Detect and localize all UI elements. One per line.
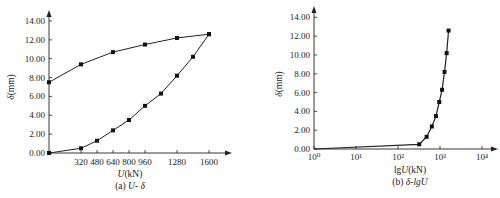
data-marker-square-icon <box>47 151 51 155</box>
data-marker-square-icon <box>445 51 449 55</box>
data-marker-square-icon <box>111 50 115 54</box>
data-marker-square-icon <box>430 124 434 128</box>
y-tick-label: 10.00 <box>290 50 311 60</box>
data-marker-square-icon <box>127 118 131 122</box>
x-tick-label: 480 <box>90 157 104 167</box>
x-tick-label: 10³ <box>434 152 446 162</box>
y-tick-label: 8.00 <box>29 73 45 83</box>
data-marker-square-icon <box>434 114 438 118</box>
data-marker-square-icon <box>443 70 447 74</box>
x-tick-label: 640 <box>106 157 120 167</box>
data-marker-square-icon <box>447 29 451 33</box>
x-tick-label: 1600 <box>200 157 219 167</box>
x-tick-label: 10⁰ <box>308 152 321 162</box>
x-tick-label: 320 <box>74 157 88 167</box>
y-tick-label: 12.00 <box>25 35 46 45</box>
data-line <box>314 31 449 149</box>
y-tick-label: 4.00 <box>29 110 45 120</box>
data-marker-square-icon <box>175 74 179 78</box>
y-tick-label: 14.00 <box>290 12 311 22</box>
figure: 0.002.004.006.008.0010.0012.0014.0032048… <box>0 0 500 198</box>
x-tick-label: 800 <box>122 157 136 167</box>
data-marker-square-icon <box>143 104 147 108</box>
x-axis-arrow-icon <box>491 147 498 152</box>
data-marker-square-icon <box>159 92 163 96</box>
data-marker-square-icon <box>143 43 147 47</box>
chart-b-delta-lgu: 0.002.004.006.008.0010.0012.0014.0010⁰10… <box>274 6 498 188</box>
y-axis-arrow-icon <box>312 6 317 13</box>
data-marker-square-icon <box>175 36 179 40</box>
x-tick-label: 960 <box>138 157 152 167</box>
x-tick-label: 10² <box>392 152 404 162</box>
x-tick-label: 1280 <box>168 157 187 167</box>
data-line <box>49 34 209 82</box>
y-tick-label: 6.00 <box>29 91 45 101</box>
data-marker-square-icon <box>47 80 51 84</box>
data-marker-square-icon <box>111 128 115 132</box>
x-axis-arrow-icon <box>225 151 232 156</box>
y-tick-label: 14.00 <box>25 16 46 26</box>
data-marker-square-icon <box>440 88 444 92</box>
data-marker-square-icon <box>79 62 83 66</box>
x-axis-label: lgU(kN) <box>394 165 426 176</box>
y-tick-label: 4.00 <box>294 106 310 116</box>
data-marker-square-icon <box>95 139 99 143</box>
data-marker-square-icon <box>79 146 83 150</box>
chart-caption: (b) δ-lgU <box>392 177 428 188</box>
y-tick-label: 6.00 <box>294 88 310 98</box>
y-axis-label: δ(mm) <box>274 71 285 97</box>
y-tick-label: 8.00 <box>294 69 310 79</box>
data-marker-square-icon <box>191 55 195 59</box>
x-axis-label: U(kN) <box>118 169 143 180</box>
y-axis-arrow-icon <box>47 10 52 17</box>
data-marker-square-icon <box>207 32 211 36</box>
y-tick-label: 2.00 <box>29 129 45 139</box>
y-axis-label: δ(mm) <box>6 74 17 100</box>
data-marker-square-icon <box>437 100 441 104</box>
chart-a-u-delta: 0.002.004.006.008.0010.0012.0014.0032048… <box>6 10 232 192</box>
data-line <box>49 34 209 153</box>
chart-caption: (a) U- δ <box>115 181 145 192</box>
y-tick-label: 12.00 <box>290 31 311 41</box>
x-tick-label: 10⁴ <box>476 152 488 162</box>
y-tick-label: 10.00 <box>25 54 46 64</box>
data-marker-square-icon <box>425 135 429 139</box>
y-tick-label: 0.00 <box>29 148 45 158</box>
data-marker-square-icon <box>417 142 421 146</box>
y-tick-label: 2.00 <box>294 125 310 135</box>
x-tick-label: 10¹ <box>350 152 362 162</box>
